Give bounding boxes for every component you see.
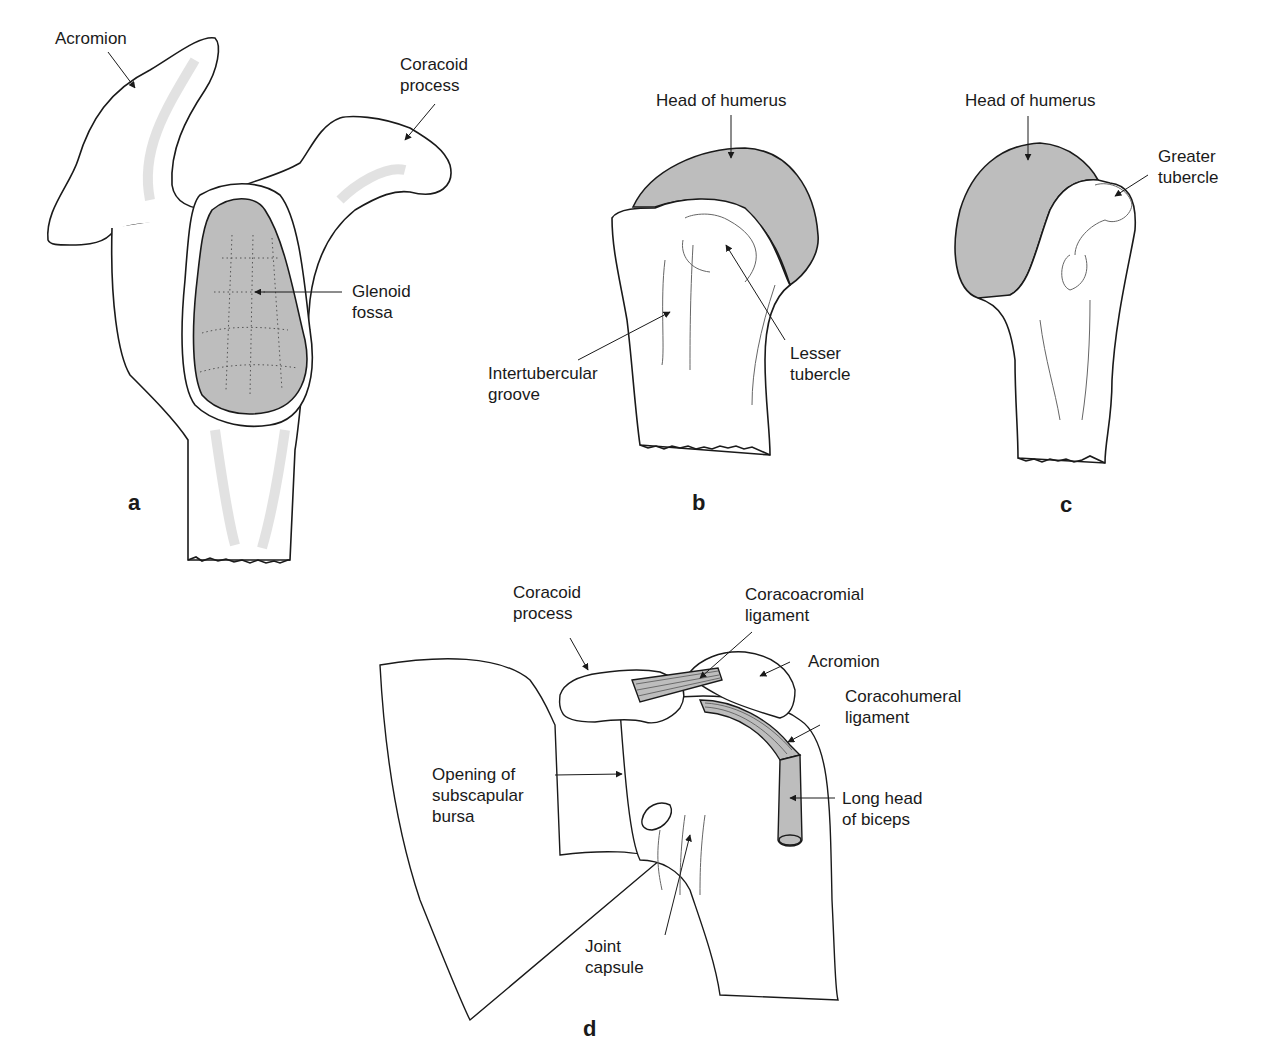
- label-a-glenoid-fossa: Glenoid fossa: [352, 281, 411, 323]
- anatomy-drawings: [0, 0, 1282, 1064]
- label-d-joint-capsule: Joint capsule: [585, 936, 644, 978]
- panel-letter-a: a: [128, 490, 140, 516]
- label-d-coracoacromial-ligament: Coracoacromial ligament: [745, 584, 864, 626]
- label-d-opening-of-subscapular-bursa: Opening of subscapular bursa: [432, 764, 524, 827]
- label-a-coracoid-process: Coracoid process: [400, 54, 468, 96]
- label-d-coracohumeral-ligament: Coracohumeral ligament: [845, 686, 961, 728]
- label-c-greater-tubercle: Greater tubercle: [1158, 146, 1218, 188]
- panel-b-humerus: [612, 148, 818, 455]
- panel-letter-d: d: [583, 1016, 596, 1042]
- label-b-head-of-humerus: Head of humerus: [656, 90, 786, 111]
- panel-letter-c: c: [1060, 492, 1072, 518]
- label-a-acromion: Acromion: [55, 28, 127, 49]
- humerus-shaft-b: [612, 199, 790, 455]
- label-b-intertubercular-groove: Intertubercular groove: [488, 363, 598, 405]
- label-c-head-of-humerus: Head of humerus: [965, 90, 1095, 111]
- humerus-d: [620, 696, 838, 1000]
- label-d-long-head-of-biceps: Long head of biceps: [842, 788, 922, 830]
- panel-c-humerus: [955, 143, 1135, 463]
- label-d-coracoid-process: Coracoid process: [513, 582, 581, 624]
- label-b-lesser-tubercle: Lesser tubercle: [790, 343, 850, 385]
- panel-letter-b: b: [692, 490, 705, 516]
- label-d-acromion: Acromion: [808, 651, 880, 672]
- biceps-tendon: [778, 755, 802, 846]
